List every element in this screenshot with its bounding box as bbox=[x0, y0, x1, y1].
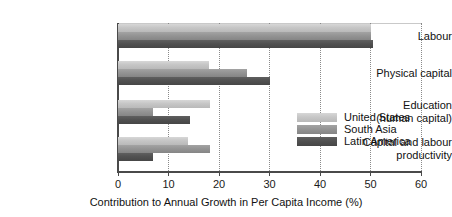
bar bbox=[118, 137, 188, 145]
tick-label-0: 0 bbox=[115, 178, 121, 190]
legend-item: South Asia bbox=[297, 123, 411, 135]
tick-60 bbox=[421, 171, 422, 176]
bar bbox=[118, 153, 153, 161]
bar bbox=[118, 145, 210, 153]
bar bbox=[118, 69, 247, 77]
tick-30 bbox=[269, 171, 270, 176]
legend-swatch bbox=[297, 137, 337, 146]
category-label-line: productivity bbox=[340, 149, 452, 162]
tick-label-30: 30 bbox=[263, 178, 275, 190]
legend-label: Latin America bbox=[344, 135, 411, 147]
bar bbox=[118, 116, 190, 124]
tick-20 bbox=[219, 171, 220, 176]
bar bbox=[118, 61, 209, 69]
tick-10 bbox=[168, 171, 169, 176]
legend-label: United States bbox=[344, 111, 410, 123]
category-label: Physical capital bbox=[340, 67, 452, 80]
tick-label-10: 10 bbox=[162, 178, 174, 190]
legend-item: United States bbox=[297, 111, 411, 123]
tick-label-50: 50 bbox=[364, 178, 376, 190]
legend-item: Latin America bbox=[297, 135, 411, 147]
legend-label: South Asia bbox=[344, 123, 397, 135]
bar-chart: 0102030405060 LabourPhysical capitalEduc… bbox=[0, 0, 452, 217]
tick-label-20: 20 bbox=[213, 178, 225, 190]
legend-swatch bbox=[297, 125, 337, 134]
bar bbox=[118, 100, 210, 108]
tick-label-40: 40 bbox=[314, 178, 326, 190]
tick-label-60: 60 bbox=[415, 178, 427, 190]
bar bbox=[118, 77, 270, 85]
tick-0 bbox=[118, 171, 119, 176]
legend-swatch bbox=[297, 113, 337, 122]
bar bbox=[118, 24, 371, 32]
bar bbox=[118, 108, 153, 116]
tick-50 bbox=[370, 171, 371, 176]
bar bbox=[118, 40, 373, 48]
tick-40 bbox=[320, 171, 321, 176]
x-axis-title: Contribution to Annual Growth in Per Cap… bbox=[0, 196, 452, 208]
category-label-line: Physical capital bbox=[340, 67, 452, 80]
legend: United StatesSouth AsiaLatin America bbox=[297, 111, 411, 147]
bar bbox=[118, 32, 371, 40]
